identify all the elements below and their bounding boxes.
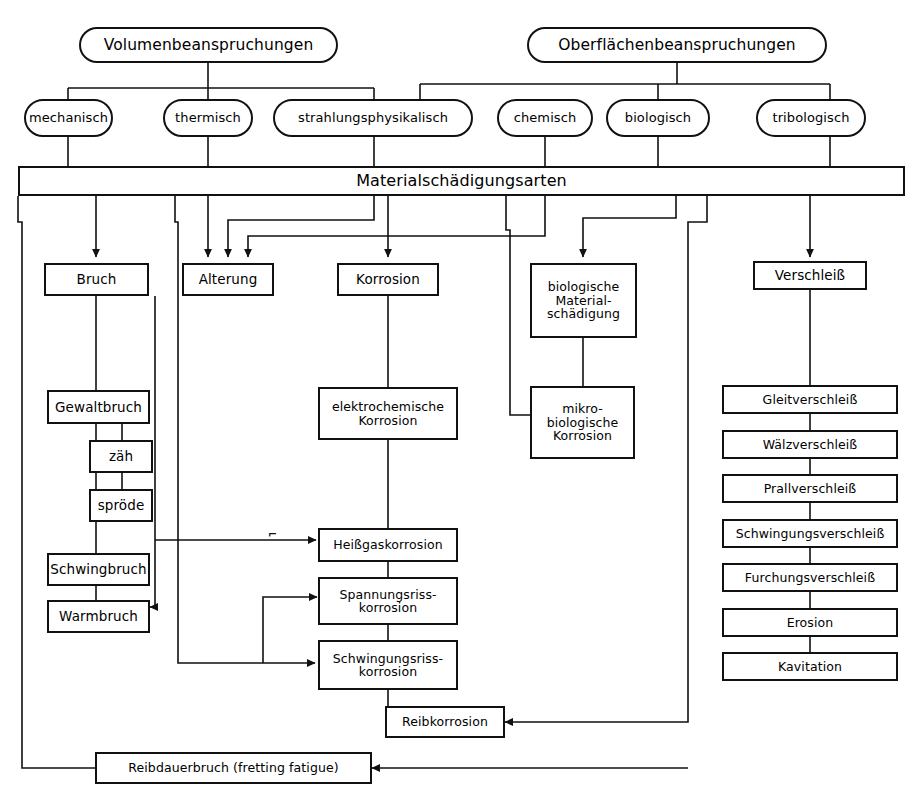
root-label: Volumenbeanspruchungen (99, 37, 319, 54)
load-type-label: mechanisch (24, 111, 113, 125)
node-label: Heißgaskorrosion (328, 538, 448, 552)
node-label: Schwingungsverschleiß (731, 527, 890, 541)
damage-category-label: biologische Material- schädigung (542, 280, 625, 321)
combined-reibdauerbruch[interactable]: Reibdauerbruch (fretting fatigue) (95, 752, 372, 784)
central-bar-label: Materialschädigungsarten (351, 172, 572, 189)
biologisch-sub-mikrobiologische-korrosion[interactable]: mikro- biologische Korrosion (530, 386, 635, 459)
load-type-chemisch[interactable]: chemisch (497, 99, 593, 137)
damage-category-label: Verschleiß (770, 268, 850, 283)
verschleiss-sub-prallverschleiss[interactable]: Prallverschleiß (722, 474, 898, 503)
korrosion-sub-elektrochemische-korrosion[interactable]: elektrochemische Korrosion (318, 387, 458, 440)
load-type-mechanisch[interactable]: mechanisch (24, 99, 113, 137)
korrosion-sub-schwingungsrisskorrosion[interactable]: Schwingungsriss- korrosion (318, 640, 458, 690)
load-type-strahlungsphysikalisch[interactable]: strahlungsphysikalisch (273, 99, 473, 137)
damage-category-verschleiss[interactable]: Verschleiß (753, 261, 867, 290)
damage-category-biologische-materialschaedigung[interactable]: biologische Material- schädigung (530, 263, 637, 338)
node-label: Gleitverschleiß (758, 393, 863, 407)
combined-reibkorrosion[interactable]: Reibkorrosion (385, 706, 505, 738)
verschleiss-sub-erosion[interactable]: Erosion (722, 608, 898, 637)
verschleiss-sub-schwingungsverschleiss[interactable]: Schwingungsverschleiß (722, 519, 898, 548)
load-type-tribologisch[interactable]: tribologisch (756, 99, 866, 137)
load-type-label: strahlungsphysikalisch (293, 111, 453, 125)
load-type-biologisch[interactable]: biologisch (606, 99, 710, 137)
node-label: Reibkorrosion (397, 715, 493, 729)
node-label: Gewaltbruch (50, 400, 147, 415)
bruch-sub-sproede[interactable]: spröde (89, 489, 153, 522)
root-label: Oberflächenbeanspruchungen (553, 37, 801, 54)
scan-artifact-mark: ⌐ (268, 528, 277, 541)
root-oberflaechenbeanspruchungen[interactable]: Oberflächenbeanspruchungen (527, 27, 827, 63)
node-label: Erosion (782, 616, 839, 630)
verschleiss-sub-kavitation[interactable]: Kavitation (722, 652, 898, 681)
node-label: Prallverschleiß (759, 482, 862, 496)
diagram-canvas: Volumenbeanspruchungen Oberflächenbeansp… (0, 0, 919, 804)
damage-category-korrosion[interactable]: Korrosion (337, 263, 439, 296)
node-label: Schwingungsriss- korrosion (328, 652, 448, 679)
damage-category-label: Alterung (194, 272, 263, 287)
verschleiss-sub-gleitverschleiss[interactable]: Gleitverschleiß (722, 385, 898, 414)
node-label: Schwingbruch (45, 562, 151, 577)
root-volumenbeanspruchungen[interactable]: Volumenbeanspruchungen (79, 27, 338, 63)
node-label: elektrochemische Korrosion (327, 400, 449, 427)
bruch-sub-schwingbruch[interactable]: Schwingbruch (47, 553, 150, 586)
damage-category-alterung[interactable]: Alterung (182, 263, 274, 296)
central-bar-materialschaedigungsarten[interactable]: Materialschädigungsarten (18, 166, 905, 196)
load-type-label: thermisch (170, 111, 246, 125)
korrosion-sub-heissgaskorrosion[interactable]: Heißgaskorrosion (318, 528, 458, 562)
node-label: zäh (104, 449, 138, 464)
load-type-label: biologisch (620, 111, 696, 125)
verschleiss-sub-furchungsverschleiss[interactable]: Furchungsverschleiß (722, 563, 898, 592)
damage-category-label: Korrosion (351, 272, 425, 287)
damage-category-bruch[interactable]: Bruch (44, 263, 149, 296)
node-label: mikro- biologische Korrosion (542, 402, 624, 443)
load-type-thermisch[interactable]: thermisch (163, 99, 253, 137)
load-type-label: tribologisch (767, 111, 854, 125)
node-label: Wälzverschleiß (758, 438, 863, 452)
korrosion-sub-spannungsrisskorrosion[interactable]: Spannungsriss- korrosion (318, 577, 458, 625)
node-label: Furchungsverschleiß (740, 571, 880, 585)
node-label: Kavitation (773, 660, 847, 674)
bruch-sub-zaeh[interactable]: zäh (89, 440, 153, 473)
verschleiss-sub-waelzverschleiss[interactable]: Wälzverschleiß (722, 430, 898, 459)
node-label: Spannungsriss- korrosion (334, 588, 441, 615)
load-type-label: chemisch (509, 111, 582, 125)
damage-category-label: Bruch (72, 272, 122, 287)
bruch-sub-warmbruch[interactable]: Warmbruch (47, 600, 150, 633)
node-label: spröde (93, 498, 150, 513)
bruch-sub-gewaltbruch[interactable]: Gewaltbruch (47, 390, 150, 424)
node-label: Warmbruch (54, 609, 143, 624)
node-label: Reibdauerbruch (fretting fatigue) (123, 761, 343, 775)
